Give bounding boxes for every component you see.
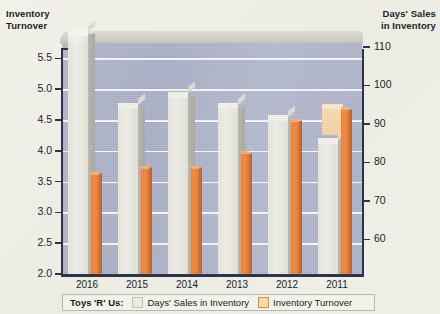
left-axis-tick xyxy=(55,212,62,214)
bar-days-sales xyxy=(168,97,188,274)
x-axis-label: 2015 xyxy=(110,279,164,290)
bar-inventory-turnover-side xyxy=(299,120,302,274)
bar-inventory-turnover xyxy=(141,168,149,274)
right-axis-tick-label: 90 xyxy=(374,117,410,129)
right-axis-tick xyxy=(363,85,370,87)
plot-area xyxy=(62,43,362,274)
left-axis-tip xyxy=(61,48,68,50)
gridline xyxy=(62,182,362,184)
left-axis-title-line1: Inventory xyxy=(6,8,50,20)
legend-item-inventory-turnover: Inventory Turnover xyxy=(258,297,352,308)
bar-days-sales-top xyxy=(118,103,138,109)
right-axis-tick-label: 100 xyxy=(374,78,410,90)
legend-company-label: Toys 'R' Us: xyxy=(70,297,123,308)
left-axis-title: Inventory Turnover xyxy=(6,8,50,31)
bar-days-sales xyxy=(118,108,138,274)
left-axis-tick xyxy=(55,58,62,60)
left-axis-title-line2: Turnover xyxy=(6,20,50,32)
right-axis-title-line1: Days' Sales xyxy=(381,8,436,20)
x-axis-label: 2013 xyxy=(210,279,264,290)
bar-days-sales xyxy=(268,120,288,274)
left-axis-tick-label: 5.0 xyxy=(16,82,52,94)
gridline xyxy=(62,212,362,214)
plot-background xyxy=(62,43,362,274)
x-axis-label: 2016 xyxy=(60,279,114,290)
gridline xyxy=(62,243,362,245)
right-axis-tick-label: 60 xyxy=(374,232,410,244)
bar-inventory-turnover-top xyxy=(91,172,99,175)
bar-inventory-turnover xyxy=(341,110,349,274)
bottom-axis-line xyxy=(61,274,364,277)
bar-inventory-turnover-side xyxy=(349,109,352,274)
left-axis-tick xyxy=(55,88,62,90)
chart-legend: Toys 'R' Us: Days' Sales in Inventory In… xyxy=(62,294,375,311)
legend-label-inventory-turnover: Inventory Turnover xyxy=(273,297,352,308)
right-axis-title: Days' Sales in Inventory xyxy=(381,8,436,31)
bar-inventory-turnover xyxy=(191,168,199,274)
bar-highlight-block xyxy=(322,108,342,135)
left-axis-tick-label: 5.5 xyxy=(16,51,52,63)
left-axis-tick xyxy=(55,181,62,183)
bar-days-sales-top xyxy=(168,92,188,98)
chart-page: Inventory Turnover Days' Sales in Invent… xyxy=(0,0,440,314)
left-axis-tick-label: 4.0 xyxy=(16,144,52,156)
bar-inventory-turnover-side xyxy=(199,167,202,274)
bar-inventory-turnover-side xyxy=(99,173,102,274)
left-axis-tick-label: 4.5 xyxy=(16,113,52,125)
bar-days-sales xyxy=(68,35,88,274)
right-axis-tick xyxy=(363,239,370,241)
bar-days-sales xyxy=(218,108,238,274)
x-axis-label: 2011 xyxy=(310,279,364,290)
bar-days-sales-top xyxy=(218,103,238,109)
bar-days-sales xyxy=(318,143,338,274)
legend-label-days-sales: Days' Sales in Inventory xyxy=(147,297,249,308)
gridline xyxy=(62,151,362,153)
bar-inventory-turnover-top xyxy=(341,107,349,110)
bar-inventory-turnover-side xyxy=(149,167,152,274)
bar-inventory-turnover-top xyxy=(191,166,199,169)
bar-inventory-turnover-top xyxy=(241,151,249,154)
bar-highlight-block-top xyxy=(322,104,343,109)
x-axis-label: 2012 xyxy=(260,279,314,290)
gridline xyxy=(62,58,362,60)
bar-inventory-turnover-side xyxy=(249,153,252,274)
left-axis-tick xyxy=(55,273,62,275)
right-axis-title-line2: in Inventory xyxy=(381,20,436,32)
left-axis-tick-label: 3.5 xyxy=(16,175,52,187)
right-axis-tick xyxy=(363,162,370,164)
right-axis-tick xyxy=(363,123,370,125)
bar-inventory-turnover xyxy=(91,174,99,274)
legend-item-days-sales: Days' Sales in Inventory xyxy=(132,297,249,308)
bar-inventory-turnover xyxy=(291,121,299,274)
gridline xyxy=(62,120,362,122)
left-axis-tick-label: 3.0 xyxy=(16,205,52,217)
bar-days-sales-top xyxy=(68,30,88,36)
right-axis-tick-label: 80 xyxy=(374,155,410,167)
right-axis-tick xyxy=(363,46,370,48)
left-axis-tick-label: 2.0 xyxy=(16,267,52,279)
legend-swatch-inventory-turnover xyxy=(258,297,269,308)
right-axis-tick-label: 70 xyxy=(374,194,410,206)
right-axis-tick-label: 110 xyxy=(374,40,410,52)
bar-days-sales-top xyxy=(318,138,338,144)
bar-inventory-turnover-top xyxy=(291,119,299,122)
legend-swatch-days-sales xyxy=(132,297,143,308)
bar-days-sales-top xyxy=(268,115,288,121)
bar-inventory-turnover xyxy=(241,154,249,274)
x-axis-label: 2014 xyxy=(160,279,214,290)
left-axis-tick xyxy=(55,150,62,152)
left-axis-tick xyxy=(55,242,62,244)
bar-inventory-turnover-top xyxy=(141,166,149,169)
right-axis-tick xyxy=(363,200,370,202)
left-axis-tick xyxy=(55,119,62,121)
gridline xyxy=(62,89,362,91)
left-axis-tick-label: 2.5 xyxy=(16,236,52,248)
